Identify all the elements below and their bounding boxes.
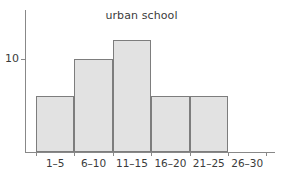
x-axis-tick — [36, 152, 37, 156]
x-axis-tick — [266, 152, 267, 156]
histogram-screenshot: urban school 10 1–56–1011–1516–2021–2526… — [0, 0, 283, 174]
x-axis-tick — [113, 152, 114, 156]
x-axis-label: 21–25 — [190, 157, 228, 169]
bar-1-5 — [36, 96, 74, 152]
x-axis-tick — [74, 152, 75, 156]
bar-11-15 — [113, 40, 151, 152]
bars-layer: 1–56–1011–1516–2021–2526–30 — [0, 0, 283, 174]
bar-16-20 — [151, 96, 189, 152]
x-axis-label: 16–20 — [151, 157, 189, 169]
x-axis-label: 26–30 — [228, 157, 266, 169]
x-axis-label: 1–5 — [36, 157, 74, 169]
bar-6-10 — [74, 59, 112, 152]
x-axis-tick — [228, 152, 229, 156]
x-axis-tick — [190, 152, 191, 156]
x-axis-label: 6–10 — [74, 157, 112, 169]
x-axis-label: 11–15 — [113, 157, 151, 169]
x-axis-tick — [151, 152, 152, 156]
bar-21-25 — [190, 96, 228, 152]
